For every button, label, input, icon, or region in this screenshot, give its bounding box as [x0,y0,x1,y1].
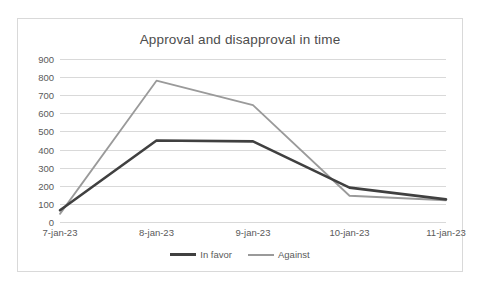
legend-item-in-favor[interactable]: In favor [170,249,232,260]
y-tick-label: 600 [38,108,54,119]
y-tick-label: 300 [38,162,54,173]
y-axis: 0100200300400500600700800900 [18,59,54,222]
y-tick-label: 0 [49,217,54,228]
y-tick-label: 400 [38,144,54,155]
x-tick-label: 9-jan-23 [236,227,271,238]
y-tick-label: 900 [38,54,54,65]
x-tick-label: 8-jan-23 [139,227,174,238]
series-line-against [60,81,446,214]
y-tick-label: 100 [38,198,54,209]
x-tick-label: 10-jan-23 [329,227,369,238]
x-tick-label: 11-jan-23 [426,227,465,238]
y-tick-label: 700 [38,90,54,101]
legend-label: Against [278,249,310,260]
series-lines [60,59,446,222]
legend-item-against[interactable]: Against [248,249,310,260]
chart-legend: In favorAgainst [18,249,462,260]
x-tick-label: 7-jan-23 [43,227,78,238]
plot-area [60,59,446,222]
series-line-in-favor [60,141,446,211]
y-tick-label: 500 [38,126,54,137]
x-axis: 7-jan-238-jan-239-jan-2310-jan-2311-jan-… [60,227,446,243]
legend-swatch-icon [248,254,274,256]
chart-container: Approval and disapproval in time 0100200… [17,18,463,272]
legend-swatch-icon [170,253,196,256]
y-tick-label: 200 [38,180,54,191]
legend-label: In favor [200,249,232,260]
y-tick-label: 800 [38,72,54,83]
gridline [60,222,446,223]
chart-title: Approval and disapproval in time [18,32,462,47]
